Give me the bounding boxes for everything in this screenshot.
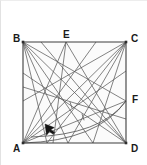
vertex-label-f: F: [132, 95, 138, 105]
vertex-label-a: A: [13, 144, 20, 154]
vertex-label-c: C: [131, 34, 138, 44]
vertex-label-d: D: [131, 144, 138, 154]
geometry-figure: [1, 1, 147, 165]
vertex-label-e: E: [63, 30, 70, 40]
figure-frame: B E C F A D: [0, 0, 147, 165]
vertex-label-b: B: [13, 34, 20, 44]
